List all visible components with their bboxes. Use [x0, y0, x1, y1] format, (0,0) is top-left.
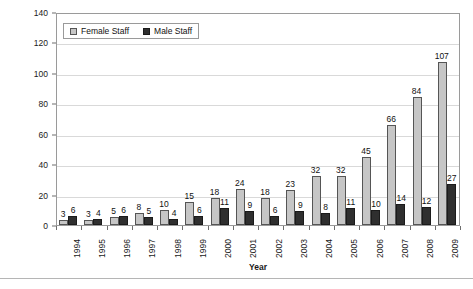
y-tick-label: 80 [39, 99, 48, 109]
x-tick-mark [81, 226, 82, 230]
x-tick-mark [283, 226, 284, 230]
x-tick-mark [460, 226, 461, 230]
bar-group: 36 [57, 14, 82, 225]
bar-value-label-male: 11 [342, 197, 360, 207]
bar-male [346, 208, 355, 225]
x-tick-mark [182, 226, 183, 230]
bar-value-label-female: 84 [408, 86, 426, 96]
legend-label: Female Staff [81, 26, 129, 36]
bar-value-label-male: 6 [266, 205, 284, 215]
y-tick-label: 140 [34, 8, 48, 18]
bar-male [371, 210, 380, 225]
x-tick-mark [56, 226, 57, 230]
bar-male [321, 213, 330, 225]
bar-value-label-female: 107 [433, 51, 451, 61]
bar-female [438, 62, 447, 225]
bar-group: 1811 [209, 14, 234, 225]
bar-male [93, 219, 102, 225]
bar-female [312, 176, 321, 225]
bar-female [413, 97, 422, 225]
x-tick-mark [309, 226, 310, 230]
x-tick-mark [410, 226, 411, 230]
chart-legend: Female StaffMale Staff [63, 23, 199, 39]
bar-group: 8412 [411, 14, 436, 225]
legend-swatch-female-icon [70, 28, 77, 35]
x-tick-mark [233, 226, 234, 230]
legend-swatch-male-icon [143, 28, 150, 35]
x-tick-label: 2004 [324, 239, 334, 258]
legend-item: Female Staff [70, 26, 129, 36]
bar-value-label-male: 9 [291, 200, 309, 210]
bottom-divider [0, 278, 473, 279]
bar-value-label-male: 9 [241, 200, 259, 210]
y-tick-label: 0 [43, 221, 48, 231]
bar-male [119, 216, 128, 225]
bar-group: 6614 [385, 14, 410, 225]
bar-group: 85 [133, 14, 158, 225]
bar-value-label-male: 10 [367, 199, 385, 209]
x-tick-label: 2009 [450, 239, 460, 258]
y-tick-label: 120 [34, 38, 48, 48]
x-tick-mark [359, 226, 360, 230]
x-tick-mark [435, 226, 436, 230]
y-axis-ticks: 020406080100120140 [0, 0, 56, 289]
x-tick-mark [258, 226, 259, 230]
bar-series-container: 3634568510415618112491862393283211451066… [57, 14, 459, 225]
bar-female [84, 220, 93, 225]
x-tick-mark [107, 226, 108, 230]
bar-value-label-male: 12 [418, 196, 436, 206]
x-tick-label: 2007 [400, 239, 410, 258]
y-tick-label: 40 [39, 160, 48, 170]
y-tick-label: 20 [39, 191, 48, 201]
bar-male [295, 211, 304, 225]
x-tick-mark [208, 226, 209, 230]
x-tick-mark [132, 226, 133, 230]
x-axis-title: Year [56, 262, 460, 272]
bar-value-label-male: 4 [165, 208, 183, 218]
bar-value-label-female: 18 [206, 187, 224, 197]
bar-male [144, 217, 153, 225]
bar-group: 10727 [436, 14, 461, 225]
x-tick-label: 1996 [122, 239, 132, 258]
legend-item: Male Staff [143, 26, 192, 36]
bar-group: 328 [310, 14, 335, 225]
x-tick-label: 2006 [375, 239, 385, 258]
y-tick-label: 60 [39, 130, 48, 140]
bar-female [110, 217, 119, 225]
x-tick-mark [334, 226, 335, 230]
x-tick-label: 2003 [299, 239, 309, 258]
bar-group: 186 [259, 14, 284, 225]
bar-male [396, 204, 405, 225]
bar-female [387, 125, 396, 225]
bar-group: 3211 [335, 14, 360, 225]
bar-value-label-female: 32 [332, 165, 350, 175]
bar-value-label-female: 45 [357, 146, 375, 156]
bar-group: 56 [108, 14, 133, 225]
x-tick-label: 1994 [72, 239, 82, 258]
x-tick-label: 2001 [248, 239, 258, 258]
x-tick-label: 1999 [198, 239, 208, 258]
bar-value-label-female: 18 [256, 187, 274, 197]
bar-value-label-male: 8 [317, 202, 335, 212]
bar-male [270, 216, 279, 225]
bar-female [362, 157, 371, 225]
legend-label: Male Staff [154, 26, 192, 36]
bar-value-label-female: 23 [281, 179, 299, 189]
bar-group: 239 [284, 14, 309, 225]
bar-female [59, 220, 68, 225]
bar-male [447, 184, 456, 225]
bar-male [422, 207, 431, 225]
bar-value-label-female: 32 [307, 165, 325, 175]
bar-value-label-female: 24 [231, 178, 249, 188]
bar-group: 34 [82, 14, 107, 225]
y-tick-label: 100 [34, 69, 48, 79]
bar-value-label-male: 14 [392, 193, 410, 203]
bar-value-label-male: 6 [190, 205, 208, 215]
bar-value-label-male: 11 [216, 197, 234, 207]
bar-male [194, 216, 203, 225]
x-tick-mark [384, 226, 385, 230]
bar-male [220, 208, 229, 225]
x-tick-label: 2002 [274, 239, 284, 258]
chart-figure: Number of Staff 020406080100120140 36345… [0, 0, 473, 289]
x-tick-label: 1998 [173, 239, 183, 258]
